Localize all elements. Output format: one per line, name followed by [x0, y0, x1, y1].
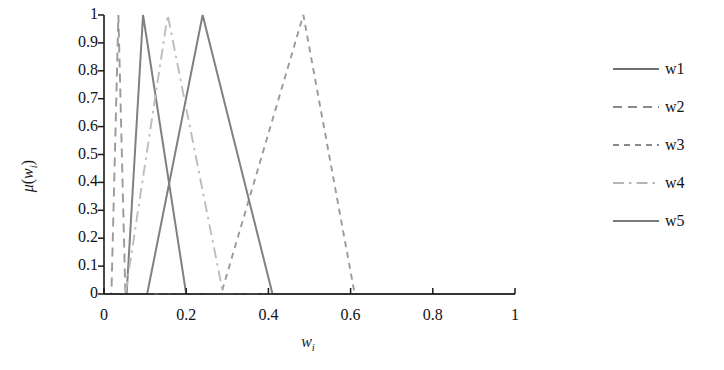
legend-label: w5 — [665, 213, 685, 229]
legend-swatch-dashed-icon — [612, 101, 660, 113]
legend-swatch-solid-icon — [612, 215, 660, 227]
legend-item-w1[interactable]: w1 — [612, 58, 724, 80]
x-tick-label: 0.8 — [423, 307, 443, 323]
x-axis-title: wi — [248, 333, 368, 353]
legend-item-w5[interactable]: w5 — [612, 210, 724, 232]
x-tick-label: 0 — [100, 307, 108, 323]
figure-container: 00.10.20.30.40.50.60.70.80.91 00.20.40.6… — [0, 0, 724, 370]
x-tick-label: 0.4 — [258, 307, 278, 323]
x-axis-tick-labels: 00.20.40.60.81 — [0, 0, 620, 370]
legend-swatch-solid-icon — [612, 63, 660, 75]
x-tick-label: 0.6 — [341, 307, 361, 323]
legend-label: w3 — [665, 137, 685, 153]
legend-label: w2 — [665, 99, 685, 115]
legend-label: w1 — [665, 61, 685, 77]
legend: w1w2w3w4w5 — [612, 58, 724, 228]
y-axis-title: μ(wi) — [14, 131, 44, 221]
legend-item-w4[interactable]: w4 — [612, 172, 724, 194]
x-tick-label: 1 — [511, 307, 519, 323]
plot-area: 00.10.20.30.40.50.60.70.80.91 00.20.40.6… — [0, 0, 620, 370]
legend-item-w2[interactable]: w2 — [612, 96, 724, 118]
x-tick-label: 0.2 — [176, 307, 196, 323]
legend-item-w3[interactable]: w3 — [612, 134, 724, 156]
legend-swatch-dashed-short-icon — [612, 139, 660, 151]
legend-label: w4 — [665, 175, 685, 191]
legend-swatch-dash-dot-icon — [612, 177, 660, 189]
